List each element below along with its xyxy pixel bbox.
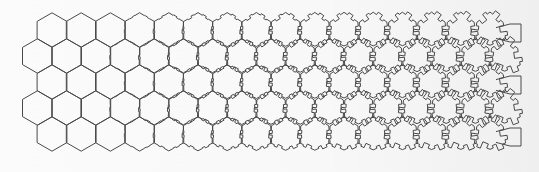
tile-shape [471, 11, 508, 47]
tile-shape [52, 91, 82, 125]
tile-shape [52, 39, 82, 73]
tile-shape [81, 39, 111, 73]
end-cap-shape [496, 76, 521, 94]
tessellation-svg [0, 0, 539, 172]
tiling-figure [0, 0, 539, 172]
tile-shape [66, 65, 96, 99]
tile-shape [66, 117, 96, 151]
end-cap-shape [496, 24, 521, 42]
tile-shape [153, 13, 184, 47]
tile-shape [442, 11, 478, 46]
tile-shape [23, 39, 53, 73]
tile-shape [66, 13, 96, 47]
tile-shape [37, 13, 67, 47]
tile-shape [96, 13, 126, 47]
tile-shape [211, 13, 243, 47]
tile-shape [37, 117, 67, 151]
tile-shape [37, 65, 67, 99]
tile-shape [124, 13, 154, 47]
tile-shape [182, 13, 213, 47]
end-cap-shape [496, 128, 521, 146]
tile-shape [23, 91, 53, 125]
tile-shape [81, 91, 111, 125]
